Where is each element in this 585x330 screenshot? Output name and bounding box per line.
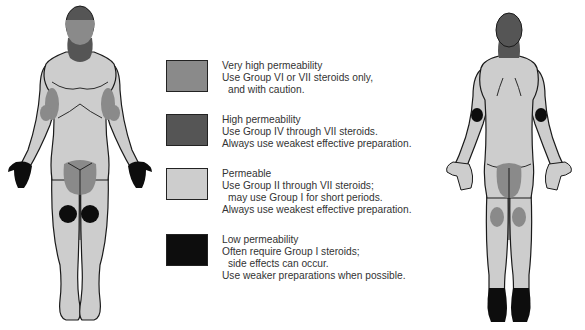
legend-line: Use Group II through VII steroids; — [222, 180, 412, 192]
front-left-antecubital — [40, 105, 52, 121]
swatch-very-high — [166, 60, 208, 92]
back-head — [496, 13, 522, 47]
legend-title: High permeability — [222, 114, 412, 126]
back-right-hand — [545, 162, 571, 190]
anterior-body-figure — [0, 0, 160, 330]
front-right-hand — [128, 162, 152, 189]
legend-line: Use Group IV through VII steroids. — [222, 126, 412, 138]
back-left-leg — [486, 190, 508, 300]
legend-text-very-high: Very high permeability Use Group VI or V… — [222, 60, 373, 96]
legend-text-permeable: Permeable Use Group II through VII stero… — [222, 168, 412, 216]
legend-title: Permeable — [222, 168, 412, 180]
back-left-elbow — [471, 108, 483, 122]
front-right-knee — [81, 205, 99, 223]
legend-text-high: High permeability Use Group IV through V… — [222, 114, 412, 150]
legend-line: Always use weakest effective preparation… — [222, 204, 412, 216]
swatch-high — [166, 114, 208, 146]
legend-text-low: Low permeability Often require Group I s… — [222, 234, 405, 282]
back-left-foot — [487, 288, 507, 322]
swatch-low — [166, 234, 208, 266]
legend-line: may use Group I for short periods. — [222, 192, 412, 204]
legend-line: side effects can occur. — [222, 258, 405, 270]
posterior-body-figure — [425, 0, 585, 330]
legend-title: Very high permeability — [222, 60, 373, 72]
legend-line: Always use weakest effective preparation… — [222, 138, 412, 150]
front-left-knee — [59, 205, 77, 223]
front-right-antecubital — [108, 105, 120, 121]
back-right-leg — [510, 190, 532, 300]
back-left-hand — [447, 162, 473, 190]
legend-line: Often require Group I steroids; — [222, 246, 405, 258]
legend-line: Use weaker preparations when possible. — [222, 270, 405, 282]
swatch-permeable — [166, 168, 208, 200]
back-right-elbow — [535, 108, 547, 122]
legend-line: Use Group VI or VII steroids only, — [222, 72, 373, 84]
front-left-hand — [8, 162, 32, 189]
back-left-popliteal — [490, 207, 504, 227]
back-right-popliteal — [512, 207, 526, 227]
back-right-foot — [511, 288, 531, 322]
legend-title: Low permeability — [222, 234, 405, 246]
legend-line: and with caution. — [222, 84, 373, 96]
